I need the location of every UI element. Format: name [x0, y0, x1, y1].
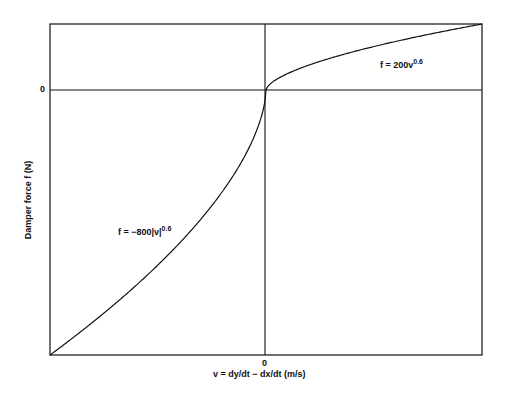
- positive-branch-curve: [266, 24, 482, 90]
- positive-branch-equation: f = 200v0.6: [380, 58, 423, 70]
- plot-frame: [50, 24, 482, 355]
- y-axis-label: Damper force f (N): [23, 161, 33, 240]
- negative-equation-main: f = −800|v|: [118, 227, 162, 237]
- positive-equation-exponent: 0.6: [413, 58, 423, 65]
- negative-branch-equation: f = −800|v|0.6: [118, 225, 171, 237]
- x-axis-label: v = dy/dt − dx/dt (m/s): [213, 369, 306, 379]
- x-zero-tick-label: 0: [262, 358, 267, 368]
- y-zero-tick-label: 0: [40, 84, 45, 94]
- positive-equation-main: f = 200v: [380, 60, 413, 70]
- negative-equation-exponent: 0.6: [162, 225, 172, 232]
- damper-force-chart: [0, 0, 508, 401]
- negative-branch-curve: [50, 90, 266, 355]
